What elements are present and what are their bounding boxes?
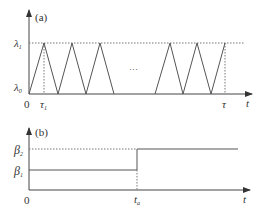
panel-a-lambda0-label: λ0	[13, 81, 22, 94]
panel-b-t-label: t	[243, 193, 247, 205]
panel-a: ··· (a) λ1 λ0 0 τ1 τ t	[13, 10, 252, 111]
panel-a-ellipsis: ···	[129, 64, 138, 74]
panel-b-label: (b)	[35, 126, 48, 139]
panel-a-lambda1-label: λ1	[13, 37, 22, 50]
diagram-canvas: ··· (a) λ1 λ0 0 τ1 τ t (b)	[0, 0, 267, 216]
panel-a-label: (a)	[35, 11, 48, 24]
panel-a-tau1-label: τ1	[40, 98, 47, 111]
panel-a-t-label: t	[246, 97, 250, 109]
panel-a-origin-label: 0	[24, 98, 30, 110]
panel-b-step-wave	[29, 149, 238, 170]
panel-a-triangle-wave-left	[29, 43, 114, 94]
panel-b-beta1-label: β1	[13, 164, 23, 178]
panel-b-beta2-label: β2	[13, 143, 23, 157]
panel-b-ta-label: ta	[134, 193, 140, 206]
panel-b: (b) β2 β1 0 ta t	[13, 126, 250, 206]
panel-b-origin-label: 0	[24, 194, 30, 206]
panel-a-tau-label: τ	[222, 98, 227, 110]
panel-a-triangle-wave-right	[155, 43, 225, 94]
